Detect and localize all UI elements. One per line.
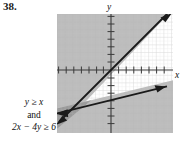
graph-svg: [57, 14, 173, 133]
grid: [57, 14, 173, 133]
y-axis-label: y: [107, 2, 111, 12]
caption-line-2: and: [0, 109, 68, 122]
coordinate-graph: [57, 14, 173, 133]
caption-line-3: 2x − 4y ≥ 6: [0, 121, 68, 134]
grid-major: [57, 14, 173, 133]
inequality-caption: y ≥ x and 2x − 4y ≥ 6: [0, 96, 68, 134]
caption-line-1: y ≥ x: [0, 96, 68, 109]
figure-root: 38.: [0, 0, 183, 143]
x-axis-label: x: [175, 70, 179, 80]
problem-number: 38.: [3, 0, 17, 12]
